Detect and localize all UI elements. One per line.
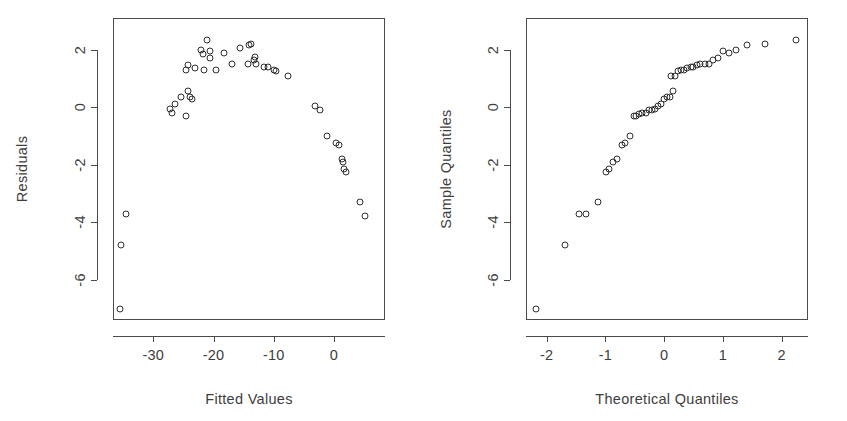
x-axis-tick xyxy=(605,336,606,342)
x-axis-title-right: Theoretical Quantiles xyxy=(595,391,738,407)
data-point xyxy=(793,36,800,43)
data-point xyxy=(626,132,633,139)
x-tick-label: -20 xyxy=(203,347,225,363)
y-tick-label: -6 xyxy=(485,273,501,286)
x-tick-label: -10 xyxy=(263,347,285,363)
data-point xyxy=(762,40,769,47)
data-point xyxy=(335,141,342,148)
data-point xyxy=(252,53,259,60)
data-point xyxy=(614,155,621,162)
data-point xyxy=(285,72,292,79)
x-tick-label: 1 xyxy=(719,347,727,363)
data-point xyxy=(340,158,347,165)
data-point xyxy=(178,94,185,101)
y-tick-label: -2 xyxy=(72,158,88,171)
data-point xyxy=(117,305,124,312)
data-point xyxy=(168,109,175,116)
data-point xyxy=(606,166,613,173)
data-point xyxy=(118,242,125,249)
data-point xyxy=(182,112,189,119)
x-axis-tick xyxy=(723,336,724,342)
x-tick-label: 0 xyxy=(660,347,668,363)
data-point xyxy=(733,46,740,53)
x-axis-tick xyxy=(214,336,215,342)
data-point xyxy=(236,45,243,52)
data-point xyxy=(207,55,214,62)
data-point xyxy=(715,55,722,62)
y-axis-tick xyxy=(504,50,510,51)
data-point xyxy=(362,213,369,220)
y-axis-line xyxy=(97,50,98,280)
data-point xyxy=(201,66,208,73)
y-axis-tick xyxy=(504,222,510,223)
x-axis-tick xyxy=(782,336,783,342)
y-axis-tick xyxy=(91,165,97,166)
data-point xyxy=(189,95,196,102)
y-axis-tick xyxy=(504,280,510,281)
x-axis-title-left: Fitted Values xyxy=(205,391,292,407)
y-tick-label: -4 xyxy=(485,216,501,229)
y-axis-tick xyxy=(91,280,97,281)
data-point xyxy=(342,168,349,175)
data-point xyxy=(562,242,569,249)
data-point xyxy=(248,40,255,47)
data-point xyxy=(192,65,199,72)
data-point xyxy=(725,49,732,56)
y-axis-tick xyxy=(504,165,510,166)
data-point xyxy=(669,88,676,95)
data-point xyxy=(622,140,629,147)
x-axis-tick xyxy=(153,336,154,342)
x-tick-label: 2 xyxy=(777,347,785,363)
data-point xyxy=(212,66,219,73)
data-point xyxy=(324,132,331,139)
data-point xyxy=(220,49,227,56)
normal-qq-panel: -2-101220-2-4-6 Theoretical Quantiles Sa… xyxy=(424,0,847,421)
x-tick-label: -1 xyxy=(599,347,612,363)
x-axis-tick xyxy=(547,336,548,342)
data-point xyxy=(582,210,589,217)
data-point xyxy=(356,199,363,206)
y-tick-label: 0 xyxy=(72,103,88,111)
x-axis-tick xyxy=(664,336,665,342)
data-point xyxy=(228,61,235,68)
data-point xyxy=(252,61,259,68)
x-tick-label: -30 xyxy=(143,347,165,363)
x-axis-tick xyxy=(274,336,275,342)
y-tick-label: 2 xyxy=(72,45,88,53)
y-axis-tick xyxy=(504,107,510,108)
x-axis-tick xyxy=(334,336,335,342)
y-axis-tick xyxy=(91,107,97,108)
residuals-vs-fitted-panel: -30-20-10020-2-4-6 Fitted Values Residua… xyxy=(0,0,423,421)
x-tick-label: 0 xyxy=(330,347,338,363)
data-point xyxy=(532,305,539,312)
data-point xyxy=(595,199,602,206)
data-point xyxy=(273,68,280,75)
y-axis-line xyxy=(510,50,511,280)
data-point xyxy=(317,107,324,114)
y-axis-tick xyxy=(91,222,97,223)
data-point xyxy=(744,42,751,49)
data-point xyxy=(206,48,213,55)
data-point xyxy=(182,66,189,73)
data-point xyxy=(123,210,130,217)
y-axis-title-right: Sample Quantiles xyxy=(438,109,454,228)
y-tick-label: 2 xyxy=(485,45,501,53)
y-tick-label: 0 xyxy=(485,103,501,111)
y-axis-tick xyxy=(91,50,97,51)
y-tick-label: -6 xyxy=(72,273,88,286)
data-point xyxy=(171,101,178,108)
y-tick-label: -2 xyxy=(485,158,501,171)
data-point xyxy=(245,61,252,68)
data-point xyxy=(204,36,211,43)
figure-canvas: { "figure": { "background_color": "#ffff… xyxy=(0,0,847,421)
y-tick-label: -4 xyxy=(72,216,88,229)
x-axis-line xyxy=(526,336,808,337)
x-tick-label: -2 xyxy=(540,347,553,363)
y-axis-title-left: Residuals xyxy=(14,136,30,202)
